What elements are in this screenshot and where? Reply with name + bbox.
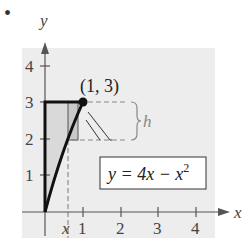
- equation-text: y = 4x − x2: [106, 161, 189, 184]
- bullet: •: [4, 2, 11, 24]
- x-axis-label: x: [233, 203, 242, 222]
- x-tick-4: 4: [191, 219, 200, 238]
- h-label: h: [143, 112, 152, 131]
- x-axis-arrow-icon: [218, 208, 230, 216]
- x-tick-1: 1: [78, 219, 87, 238]
- y-tick-1: 1: [25, 166, 34, 185]
- y-tick-3: 3: [25, 93, 34, 112]
- point-label: (1, 3): [80, 76, 119, 97]
- x-marker-label: x: [61, 219, 70, 238]
- y-tick-4: 4: [25, 57, 34, 76]
- point-marker: [79, 98, 88, 107]
- y-tick-2: 2: [25, 130, 34, 149]
- x-tick-3: 3: [153, 219, 162, 238]
- diagram: • y x 1 2 3 4 x 1 2 3 4 (1, 3) h y = 4x …: [0, 0, 248, 246]
- y-axis-label: y: [38, 11, 48, 30]
- x-tick-2: 2: [116, 219, 125, 238]
